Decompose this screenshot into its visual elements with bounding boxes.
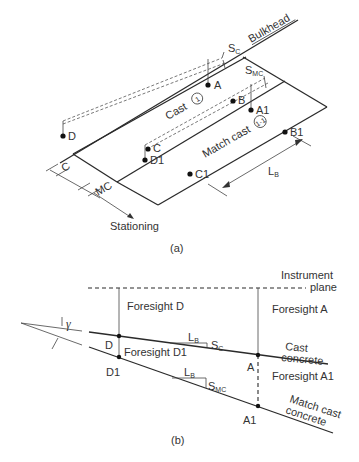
foresight-a1-label: Foresight A1 xyxy=(272,370,334,382)
lb-ext-left xyxy=(208,184,227,196)
foresight-a-label: Foresight A xyxy=(272,303,328,315)
point-c xyxy=(145,146,150,151)
point-a xyxy=(205,82,210,87)
label-c: C xyxy=(153,142,161,154)
label-sc: SC xyxy=(228,42,240,55)
gamma-line-lower xyxy=(21,323,82,345)
label-d: D xyxy=(68,130,76,142)
label-d: D xyxy=(105,339,113,351)
point-b1 xyxy=(282,129,287,134)
smc-dim xyxy=(264,76,266,88)
sc-label: SC xyxy=(211,339,223,352)
point-a1 xyxy=(248,107,253,112)
right-edge xyxy=(243,57,327,107)
dim-mc-label: MC xyxy=(93,179,114,198)
instrument-label-1: Instrument xyxy=(281,269,333,281)
svg-text:1: 1 xyxy=(194,95,201,103)
label-a: A xyxy=(214,79,222,91)
point-c1 xyxy=(187,171,192,176)
label-b: B xyxy=(238,94,245,106)
cast-concrete-label-2: concrete xyxy=(281,351,324,367)
label-c1: C1 xyxy=(195,168,209,180)
instrument-label-2: plane xyxy=(310,281,337,293)
gamma-label: γ xyxy=(66,317,71,331)
lb-label: LB xyxy=(268,165,279,178)
match-cast-label-group: Match cast 1-1 xyxy=(200,113,268,159)
cast-left-edge xyxy=(73,154,117,182)
match-cast-label: Match cast xyxy=(200,123,252,160)
label-smc: SMC xyxy=(245,64,263,77)
sight-line-cast-upper xyxy=(63,58,222,121)
lb-dim-line xyxy=(228,140,302,184)
cast-label: Cast xyxy=(163,100,189,122)
label-a1: A1 xyxy=(243,414,256,426)
caption-b: (b) xyxy=(171,434,184,446)
figure-b-elevation-view: Instrument plane γ Foresight D Foresight… xyxy=(21,269,343,446)
point-a xyxy=(256,353,260,357)
point-d1 xyxy=(117,355,121,359)
label-d1: D1 xyxy=(106,366,120,378)
gamma-line-upper xyxy=(21,323,82,331)
label-a1: A1 xyxy=(256,104,269,116)
label-b1: B1 xyxy=(290,126,303,138)
stationing-arrow-head xyxy=(127,213,134,219)
point-a1 xyxy=(256,404,260,408)
smc-label: SMC xyxy=(208,380,226,393)
gamma-arrow-lower xyxy=(52,338,58,349)
sc-tick xyxy=(222,52,224,58)
point-b xyxy=(230,98,235,103)
cast-label-group: Cast 1 xyxy=(163,91,205,122)
dim-c-label: C xyxy=(59,159,72,173)
point-d xyxy=(117,334,121,338)
match-cast-bottom-edge xyxy=(158,107,327,205)
caption-a: (a) xyxy=(170,242,183,254)
point-d xyxy=(60,133,65,138)
lb-arrow-left xyxy=(222,181,230,188)
segment-geometry-diagram: A D C B A1 D1 C1 B1 Bulkhead SC SMC Cast… xyxy=(0,0,359,462)
stationing-arrow-line xyxy=(94,193,132,218)
lb-label-mc: LB xyxy=(184,366,195,379)
label-d1: D1 xyxy=(150,154,164,166)
dim-tick-1 xyxy=(46,164,58,171)
joint-line xyxy=(117,81,285,182)
stationing-label: Stationing xyxy=(110,220,159,232)
point-d1 xyxy=(142,157,147,162)
figure-a-isometric-view: A D C B A1 D1 C1 B1 Bulkhead SC SMC Cast… xyxy=(46,9,327,254)
lb-arrow-right xyxy=(295,139,303,146)
foresight-d1-label: Foresight D1 xyxy=(124,346,187,358)
lb-label-cast: LB xyxy=(188,331,199,344)
foresight-d-label: Foresight D xyxy=(127,300,184,312)
bulkhead-label-group: Bulkhead xyxy=(246,9,295,44)
label-a: A xyxy=(247,361,255,373)
match-cast-left-edge xyxy=(117,182,158,205)
